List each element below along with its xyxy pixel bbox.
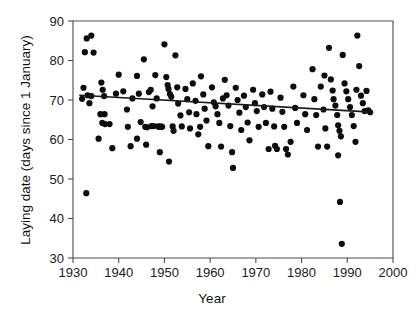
data-point xyxy=(197,124,203,130)
data-point xyxy=(195,131,201,137)
x-tick-label: 1980 xyxy=(287,265,316,280)
data-point xyxy=(124,106,130,112)
x-axis-title: Year xyxy=(198,291,226,306)
data-point xyxy=(326,45,332,51)
data-point xyxy=(336,128,342,134)
data-point xyxy=(290,83,296,89)
data-point xyxy=(267,89,273,95)
data-point xyxy=(82,49,88,55)
y-tick-label: 60 xyxy=(50,132,64,147)
data-point xyxy=(328,76,334,82)
data-point xyxy=(322,125,328,131)
data-point xyxy=(318,83,324,89)
data-point xyxy=(134,136,140,142)
data-point xyxy=(313,112,319,118)
data-point xyxy=(353,87,359,93)
data-point xyxy=(152,72,158,78)
data-point xyxy=(354,33,360,39)
data-point xyxy=(159,124,165,130)
data-point xyxy=(334,112,340,118)
data-point xyxy=(136,91,142,97)
data-point xyxy=(363,88,369,94)
data-point xyxy=(238,127,244,133)
x-tick-label: 1990 xyxy=(333,265,362,280)
data-point xyxy=(79,96,85,102)
y-axis-ticks xyxy=(68,21,73,258)
x-tick-label: 1930 xyxy=(59,265,88,280)
data-point xyxy=(230,165,236,171)
data-point xyxy=(106,121,112,127)
data-point xyxy=(113,91,119,97)
data-point xyxy=(358,93,364,99)
x-tick-label: 2000 xyxy=(379,265,408,280)
data-point xyxy=(190,80,196,86)
data-point xyxy=(128,143,134,149)
data-point xyxy=(294,120,300,126)
data-point xyxy=(266,146,272,152)
data-point xyxy=(192,98,198,104)
data-point xyxy=(182,86,188,92)
data-point xyxy=(338,133,344,139)
data-point xyxy=(254,108,260,114)
x-tick-label: 1970 xyxy=(241,265,270,280)
data-point xyxy=(324,144,330,150)
data-point xyxy=(263,120,269,126)
data-point xyxy=(300,92,306,98)
data-point xyxy=(177,112,183,118)
data-point xyxy=(233,85,239,91)
data-point xyxy=(330,87,336,93)
data-point xyxy=(98,80,104,86)
data-point xyxy=(214,111,220,117)
x-axis-ticks xyxy=(73,258,393,263)
data-point xyxy=(141,56,147,62)
data-point xyxy=(149,103,155,109)
data-point xyxy=(234,97,240,103)
data-point xyxy=(218,144,224,150)
data-point xyxy=(134,73,140,79)
data-point xyxy=(256,124,262,130)
y-tick-label: 80 xyxy=(50,53,64,68)
data-point xyxy=(315,144,321,150)
data-point xyxy=(88,33,94,39)
x-tick-label: 1940 xyxy=(104,265,133,280)
data-point xyxy=(279,109,285,115)
data-point xyxy=(187,125,193,131)
data-point xyxy=(200,91,206,97)
data-point xyxy=(216,120,222,126)
data-point xyxy=(227,123,233,129)
data-point xyxy=(209,84,215,90)
data-point xyxy=(285,151,291,157)
data-point xyxy=(186,109,192,115)
data-point xyxy=(341,80,347,86)
data-point xyxy=(261,104,267,110)
data-point xyxy=(352,139,358,145)
data-point xyxy=(193,111,199,117)
data-point xyxy=(339,241,345,247)
data-point xyxy=(80,85,86,91)
data-point xyxy=(202,106,208,112)
data-point xyxy=(241,93,247,99)
data-point xyxy=(172,52,178,58)
x-tick-label: 1960 xyxy=(196,265,225,280)
data-point xyxy=(259,91,265,97)
y-tick-label: 90 xyxy=(50,14,64,29)
data-point xyxy=(332,102,338,108)
data-point xyxy=(125,124,131,130)
data-point xyxy=(321,72,327,78)
data-point xyxy=(143,142,149,148)
data-point xyxy=(163,74,169,80)
data-point xyxy=(340,52,346,58)
data-point xyxy=(83,190,89,196)
data-point xyxy=(222,77,228,83)
data-point xyxy=(120,88,126,94)
data-point xyxy=(283,146,289,152)
chart-canvas: 19301940195019601970198019902000 3040506… xyxy=(0,0,416,314)
y-tick-label: 50 xyxy=(50,172,64,187)
data-point xyxy=(288,139,294,145)
data-point xyxy=(356,63,362,69)
data-point xyxy=(220,95,226,101)
data-point xyxy=(337,199,343,205)
data-point xyxy=(116,72,122,78)
data-point xyxy=(168,94,174,100)
y-axis-tick-labels: 30405060708090 xyxy=(50,14,64,266)
